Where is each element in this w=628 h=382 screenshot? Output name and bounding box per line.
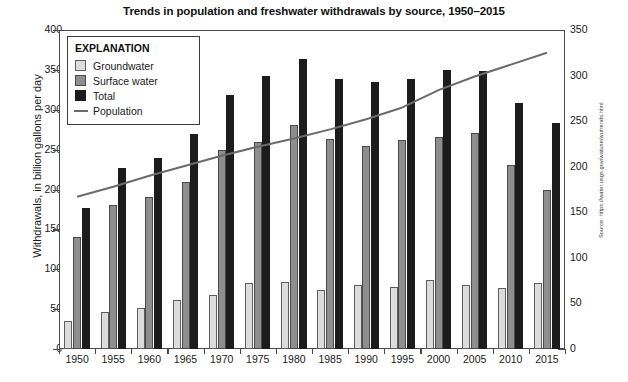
legend-item-gw: Groundwater	[75, 58, 192, 73]
bar-surface-water-1965	[182, 182, 190, 349]
bar-groundwater-2015	[534, 283, 542, 349]
bar-surface-water-1980	[290, 125, 298, 349]
bar-total-2000	[443, 70, 451, 349]
bar-total-1995	[407, 79, 415, 349]
legend-item-label: Population	[93, 105, 143, 117]
bar-surface-water-1990	[362, 146, 370, 349]
legend: EXPLANATION GroundwaterSurface waterTota…	[67, 36, 200, 125]
bar-groundwater-1960	[137, 308, 145, 349]
bar-total-1975	[262, 76, 270, 349]
legend-item-sw: Surface water	[75, 73, 192, 88]
bar-groundwater-2005	[462, 285, 470, 349]
legend-items: GroundwaterSurface waterTotalPopulation	[75, 58, 192, 118]
y-axis-left-tick-400: 400	[22, 23, 62, 35]
bar-surface-water-1985	[326, 139, 334, 349]
x-axis-tick-2015: 2015	[524, 353, 570, 365]
bar-total-1980	[299, 59, 307, 349]
bar-groundwater-1955	[101, 312, 109, 349]
bar-surface-water-1955	[109, 205, 117, 349]
legend-swatch-gw-icon	[75, 60, 86, 71]
y-axis-left-tick-150: 150	[22, 222, 62, 234]
bar-total-2015	[552, 123, 560, 349]
bar-groundwater-1990	[354, 285, 362, 349]
legend-swatch-line-icon	[75, 105, 86, 116]
y-axis-right-tickmark	[558, 349, 565, 350]
page-title: Trends in population and freshwater with…	[0, 5, 628, 17]
bar-total-1990	[371, 82, 379, 349]
y-axis-right-tick-150: 150	[570, 205, 610, 217]
y-axis-left-tick-200: 200	[22, 183, 62, 195]
legend-swatch-tot-icon	[75, 90, 86, 101]
bar-groundwater-2010	[498, 288, 506, 349]
y-axis-right-tick-350: 350	[570, 23, 610, 35]
bar-surface-water-1995	[398, 140, 406, 349]
bar-total-1960	[154, 158, 162, 349]
bar-total-2010	[515, 103, 523, 349]
bar-total-1950	[82, 208, 90, 349]
bar-groundwater-1975	[245, 283, 253, 349]
y-axis-right-tick-250: 250	[570, 114, 610, 126]
source-note: Source: https://water.usgs.gov/watuse/wu…	[598, 78, 604, 238]
bar-groundwater-1970	[209, 295, 217, 349]
bar-groundwater-1950	[64, 321, 72, 349]
y-axis-left-tick-300: 300	[22, 103, 62, 115]
bar-surface-water-1950	[73, 237, 81, 349]
bar-surface-water-1960	[145, 197, 153, 349]
legend-item-label: Groundwater	[93, 60, 154, 72]
y-axis-right-tick-0: 0	[570, 342, 610, 354]
legend-item-label: Surface water	[93, 75, 158, 87]
y-axis-left-tick-100: 100	[22, 262, 62, 274]
y-axis-right-tick-100: 100	[570, 251, 610, 263]
y-axis-right-tick-200: 200	[570, 160, 610, 172]
bar-surface-water-1970	[218, 150, 226, 349]
y-axis-right-tick-50: 50	[570, 296, 610, 308]
bar-groundwater-2000	[426, 280, 434, 349]
bar-total-1970	[226, 95, 234, 349]
bar-surface-water-2015	[543, 190, 551, 350]
bar-total-1985	[335, 79, 343, 349]
bar-surface-water-2000	[435, 137, 443, 349]
bar-total-1955	[118, 168, 126, 349]
bar-surface-water-2005	[471, 133, 479, 349]
legend-item-tot: Total	[75, 88, 192, 103]
bar-total-2005	[479, 71, 487, 349]
chart-root: Trends in population and freshwater with…	[0, 0, 628, 382]
y-axis-right-tick-300: 300	[570, 69, 610, 81]
bar-groundwater-1995	[390, 287, 398, 349]
bar-total-1965	[190, 134, 198, 349]
legend-swatch-sw-icon	[75, 75, 86, 86]
y-axis-left-tick-50: 50	[22, 302, 62, 314]
y-axis-left-tick-350: 350	[22, 63, 62, 75]
bar-surface-water-1975	[254, 142, 262, 349]
x-axis-tickmark	[565, 349, 566, 354]
bar-groundwater-1985	[317, 290, 325, 349]
legend-title: EXPLANATION	[75, 42, 192, 54]
bar-groundwater-1965	[173, 300, 181, 349]
y-axis-left-tick-250: 250	[22, 143, 62, 155]
legend-item-line: Population	[75, 103, 192, 118]
bar-groundwater-1980	[281, 282, 289, 349]
bar-surface-water-2010	[507, 165, 515, 349]
legend-item-label: Total	[93, 90, 115, 102]
